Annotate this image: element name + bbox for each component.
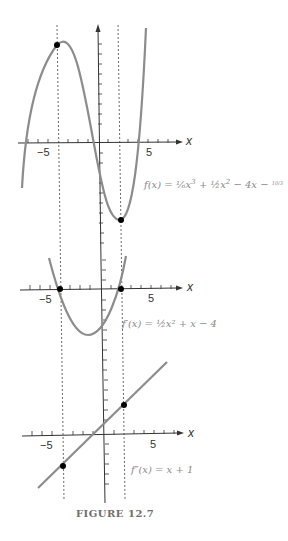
point-fdoubleprime-neg4: [60, 463, 66, 469]
label-fprime: f′(x) = ½x² + x − 4: [122, 318, 217, 329]
shared-y-axis: [101, 262, 105, 503]
label-fdoubleprime: f″(x) = x + 1: [131, 464, 193, 475]
tick-label-neg5-fprime: −5: [39, 293, 52, 305]
x-axis-label-fprime: x: [187, 280, 193, 294]
graph-fdoubleprime-axes: [22, 430, 184, 436]
point-local-max: [54, 42, 60, 48]
x-axis-label-f: x: [186, 134, 192, 148]
figure-canvas: [0, 0, 288, 541]
point-fdoubleprime-2: [121, 402, 127, 408]
label-f: f(x) = ⅙x3 + ½x2 − 4x − 10/3: [144, 178, 283, 190]
curve-fprime: [49, 256, 126, 335]
point-fprime-root-2: [118, 286, 124, 292]
tick-label-neg5-fdoubleprime: −5: [40, 439, 53, 451]
point-local-min: [118, 217, 124, 223]
figure-caption: FIGURE 12.7: [76, 508, 154, 519]
tick-label-5-fdoubleprime: 5: [150, 438, 156, 450]
graph-f-axes: [18, 24, 183, 262]
curve-f: [22, 28, 146, 220]
x-axis-label-fdoubleprime: x: [188, 426, 194, 440]
point-fprime-root-neg4: [57, 286, 63, 292]
tick-label-5-fprime: 5: [148, 292, 154, 304]
dashed-line-x-neg4: [57, 25, 64, 500]
tick-label-neg5-f: −5: [37, 146, 50, 158]
tick-label-5-f: 5: [146, 146, 152, 158]
